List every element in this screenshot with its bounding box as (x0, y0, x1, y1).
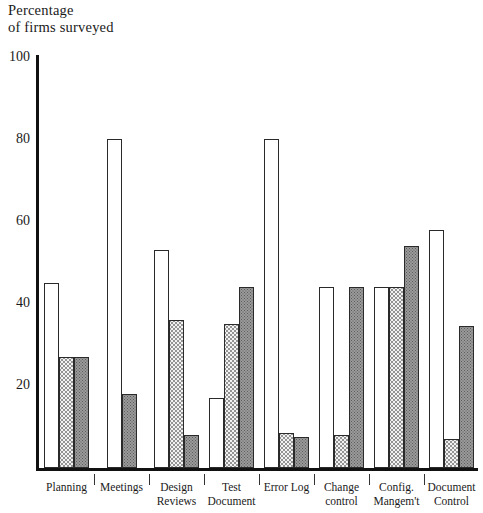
category-separator (94, 474, 95, 485)
bar (349, 287, 364, 468)
bar (294, 437, 309, 468)
bar-group (424, 50, 479, 468)
category-label: Error Log (264, 481, 310, 495)
bar (429, 230, 444, 468)
category-label: Config. Mangem't (373, 481, 419, 508)
bar (444, 439, 459, 468)
bar (122, 394, 137, 468)
category-label: Meetings (100, 481, 143, 495)
category-label: Change control (324, 481, 359, 508)
bar (239, 287, 254, 468)
y-tick-100: 100 (9, 49, 30, 65)
bar (154, 250, 169, 468)
category-separator (424, 474, 425, 485)
category-label: Design Reviews (157, 481, 197, 508)
bar (279, 433, 294, 468)
bar (184, 435, 199, 468)
bar (224, 324, 239, 468)
bar-group (259, 50, 314, 468)
bar-group (204, 50, 259, 468)
category-separator (369, 474, 370, 485)
y-tick-40: 40 (16, 295, 30, 311)
bar (404, 246, 419, 468)
category-separator (204, 474, 205, 485)
bar (319, 287, 334, 468)
bar (334, 435, 349, 468)
bar (209, 398, 224, 468)
y-tick-20: 20 (16, 377, 30, 393)
bar-group (314, 50, 369, 468)
x-axis-line (36, 468, 478, 471)
bar (74, 357, 89, 468)
category-separator (314, 474, 315, 485)
category-separator (149, 474, 150, 485)
bar-group (369, 50, 424, 468)
y-tick-80: 80 (16, 131, 30, 147)
category-separator (259, 474, 260, 485)
y-tick-60: 60 (16, 213, 30, 229)
bar (59, 357, 74, 468)
plot-area: 100 80 60 40 20 (36, 50, 479, 470)
bar (459, 326, 474, 468)
chart-root: Percentage of firms surveyed 100 80 60 4… (0, 0, 483, 513)
bar (107, 139, 122, 468)
bar-group (39, 50, 94, 468)
bar-group (94, 50, 149, 468)
bar-group (149, 50, 204, 468)
bar-groups (39, 50, 479, 468)
category-label: Document Control (428, 481, 476, 508)
bar (44, 283, 59, 468)
bar (169, 320, 184, 468)
y-axis-title: Percentage of firms surveyed (8, 2, 114, 36)
category-label: Planning (46, 481, 87, 495)
bar (374, 287, 389, 468)
bar (264, 139, 279, 468)
bar (389, 287, 404, 468)
category-label: Test Document (208, 481, 256, 508)
